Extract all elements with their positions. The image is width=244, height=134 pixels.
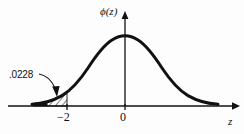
x-axis-label: z	[228, 116, 232, 127]
x-tick-label-zero: 0	[120, 111, 126, 123]
normal-distribution-figure: ϕ(z) z −2 0 .0228	[0, 0, 244, 134]
y-axis	[122, 11, 129, 106]
x-tick-label-minus-two: −2	[57, 111, 70, 123]
tail-area-value-label: .0228	[9, 70, 33, 80]
y-axis-label: ϕ(z)	[100, 6, 117, 17]
annotation-leader	[39, 74, 60, 97]
axis-ticks	[67, 104, 125, 110]
